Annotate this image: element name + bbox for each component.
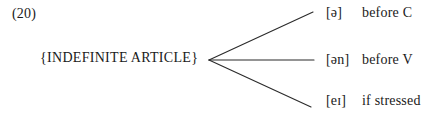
leaf-ipa-form: [eɪ]	[326, 93, 360, 109]
leaf-context-label: if stressed	[362, 93, 421, 109]
leaf-context-label: before V	[362, 52, 413, 68]
leaf-ipa-form: [ən]	[326, 52, 360, 68]
branch-line-top	[209, 12, 313, 60]
branch-line-bottom	[209, 60, 311, 107]
leaf-context-label: before C	[362, 5, 412, 21]
linguistics-branching-diagram: (20) {INDEFINITE ARTICLE} [ə] before C […	[0, 0, 436, 118]
leaf-ipa-form: [ə]	[326, 5, 360, 21]
